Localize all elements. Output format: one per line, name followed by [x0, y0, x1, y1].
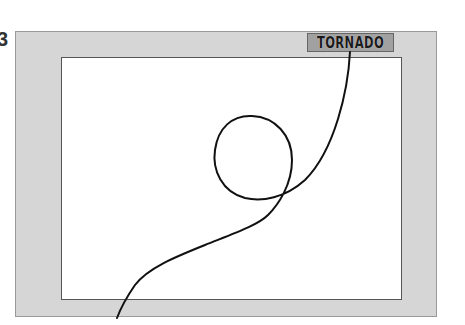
tornado-path-diagram [0, 0, 465, 325]
tornado-path-line [117, 52, 350, 318]
